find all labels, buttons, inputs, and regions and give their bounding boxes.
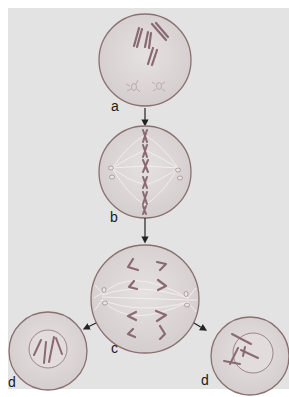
label-d-left: d bbox=[8, 374, 16, 390]
cell-d-left: d bbox=[8, 312, 87, 390]
label-d-right: d bbox=[201, 372, 209, 388]
arrow-c-to-d-left bbox=[86, 323, 96, 328]
cell-b: b bbox=[99, 126, 191, 225]
cell-division-diagram: a b bbox=[0, 0, 289, 397]
label-b: b bbox=[110, 209, 118, 225]
arrow-c-to-d-right bbox=[194, 323, 204, 329]
label-c: c bbox=[111, 340, 118, 356]
cell-a: a bbox=[99, 14, 191, 114]
nucleus-d-right bbox=[233, 333, 273, 373]
cell-c: c bbox=[91, 245, 199, 356]
cell-d-right: d bbox=[201, 317, 289, 395]
nucleus-d-left bbox=[29, 330, 67, 368]
label-a: a bbox=[111, 98, 119, 114]
